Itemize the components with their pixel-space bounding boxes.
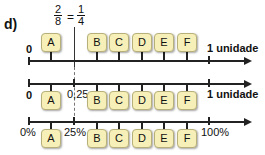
- tick: [186, 121, 188, 129]
- equals-sign: =: [67, 10, 74, 24]
- number-line-1-axis: [29, 60, 245, 62]
- box-f: F: [177, 91, 197, 110]
- tick: [118, 52, 120, 60]
- box-d: D: [132, 129, 152, 148]
- box-a: A: [41, 129, 61, 148]
- mid-label-0-25: 0,25: [67, 88, 88, 100]
- fraction-denominator: 4: [77, 16, 85, 27]
- tick: [208, 79, 210, 87]
- fraction-denominator: 8: [54, 16, 62, 27]
- tick: [28, 117, 30, 125]
- tick: [96, 121, 98, 129]
- tick: [73, 79, 75, 87]
- tick: [28, 79, 30, 87]
- start-label-0: 0: [26, 43, 32, 55]
- box-e: E: [154, 33, 174, 52]
- fraction-two-eighths: 2 8: [54, 4, 62, 27]
- box-a: A: [41, 33, 61, 52]
- tick: [118, 121, 120, 129]
- box-b: B: [87, 91, 107, 110]
- box-b: B: [87, 33, 107, 52]
- tick: [163, 52, 165, 60]
- box-c: C: [109, 129, 129, 148]
- box-d: D: [132, 33, 152, 52]
- tick: [28, 57, 30, 65]
- tick: [208, 56, 210, 64]
- end-label-100-percent: 100%: [201, 126, 229, 138]
- tick: [186, 83, 188, 91]
- box-f: F: [177, 129, 197, 148]
- tick: [96, 83, 98, 91]
- end-label-1-unidade: 1 unidade: [207, 88, 258, 100]
- tick: [186, 52, 188, 60]
- tick: [141, 83, 143, 91]
- fraction-one-quarter: 1 4: [77, 4, 85, 27]
- tick: [73, 117, 75, 125]
- arrow-head-icon: [244, 80, 252, 88]
- box-d: D: [132, 91, 152, 110]
- end-label-1-unidade: 1 unidade: [207, 42, 258, 54]
- tick: [141, 121, 143, 129]
- box-c: C: [109, 91, 129, 110]
- box-b: B: [87, 129, 107, 148]
- start-label-0: 0: [26, 89, 32, 101]
- box-c: C: [109, 33, 129, 52]
- mid-label-25-percent: 25%: [64, 126, 86, 138]
- tick: [208, 117, 210, 125]
- box-a: A: [41, 91, 61, 110]
- arrow-head-icon: [244, 57, 252, 65]
- tick: [163, 83, 165, 91]
- box-e: E: [154, 129, 174, 148]
- figure-label: d): [4, 16, 17, 32]
- arrow-head-icon: [244, 118, 252, 126]
- number-line-2-axis: [29, 83, 245, 85]
- start-label-0-percent: 0%: [20, 126, 36, 138]
- tick: [96, 52, 98, 60]
- tick: [163, 121, 165, 129]
- tick: [118, 83, 120, 91]
- tick: [50, 121, 52, 129]
- tick: [50, 52, 52, 60]
- box-f: F: [177, 33, 197, 52]
- tick: [50, 83, 52, 91]
- tick: [141, 52, 143, 60]
- box-e: E: [154, 91, 174, 110]
- number-line-3-axis: [29, 121, 245, 123]
